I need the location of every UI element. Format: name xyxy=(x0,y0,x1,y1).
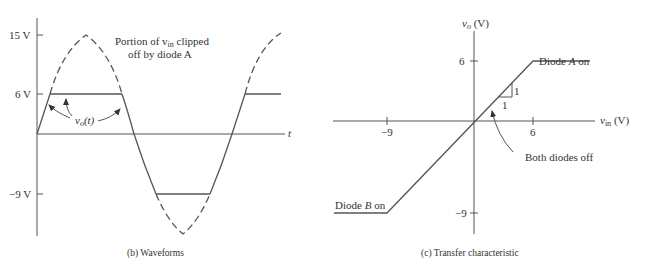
vo-axis-label: vo (V) xyxy=(462,17,489,31)
transfer-plot: −9 6 6 −9 vo (V) vin (V) 1 1 Diode A on … xyxy=(333,17,629,259)
label-y-minus9: −9 xyxy=(455,207,467,219)
diagram-canvas: 15 V 6 V −9 V t Portion of vin clipped o… xyxy=(0,0,646,270)
vin-clipped-top xyxy=(50,35,122,94)
both-diodes-off-label: Both diodes off xyxy=(525,151,594,163)
waveforms-plot: 15 V 6 V −9 V t Portion of vin clipped o… xyxy=(9,18,292,259)
diode-a-label: Diode A on xyxy=(539,55,590,67)
vin-axis-label: vin (V) xyxy=(600,114,629,128)
label-6v: 6 V xyxy=(15,88,31,100)
vin-rise-solid xyxy=(37,94,50,134)
vin-clipped-bottom xyxy=(156,194,210,234)
label-15v: 15 V xyxy=(9,29,31,41)
slope-rise-label: 1 xyxy=(514,85,520,97)
vin-clipped-top2 xyxy=(245,33,281,94)
arrow-both-off xyxy=(492,111,513,152)
arrow-to-clip xyxy=(66,99,72,116)
diode-b-label: Diode B on xyxy=(335,199,386,211)
annotation-off-by-diode-a: off by diode A xyxy=(128,48,192,60)
vo-label: vo(t) xyxy=(75,114,95,128)
label-minus9v: −9 V xyxy=(9,188,31,200)
transfer-caption: (c) Transfer characteristic xyxy=(421,248,519,259)
annotation-portion-clipped: Portion of vin clipped xyxy=(115,35,209,49)
label-y-6: 6 xyxy=(459,55,465,67)
waveforms-caption: (b) Waveforms xyxy=(127,248,184,259)
vin-rise2-solid xyxy=(210,94,245,194)
slope-run-label: 1 xyxy=(502,99,508,111)
arrow-to-fall xyxy=(98,109,120,121)
vin-fall-solid xyxy=(122,94,156,194)
label-x-minus9: −9 xyxy=(381,126,393,138)
t-axis-label: t xyxy=(288,127,292,139)
transfer-curve xyxy=(334,61,590,213)
label-x-6: 6 xyxy=(530,126,536,138)
